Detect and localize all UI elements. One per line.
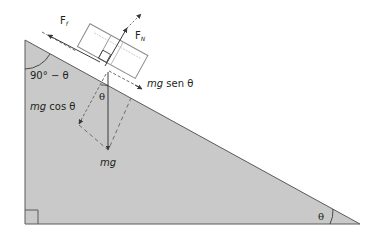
incline-dashed-extension <box>42 32 76 51</box>
parallel-component-label: mg sen θ <box>147 78 193 89</box>
friction-label: Ff <box>60 15 69 27</box>
base-angle-label: θ <box>318 211 324 222</box>
top-angle-label: 90° − θ <box>30 70 69 81</box>
incline-triangle <box>25 40 360 224</box>
inclined-plane-diagram: Ff FN mg sen θ mg mg cos θ θ 90° − θ θ <box>0 0 380 244</box>
weight-label: mg <box>100 157 116 168</box>
parallel-component-arrow <box>135 85 142 89</box>
normal-force-dashed-extension <box>127 14 141 28</box>
perpendicular-component-label: mg cos θ <box>30 101 75 112</box>
normal-label: FN <box>135 30 146 42</box>
block-angle-label: θ <box>99 91 105 102</box>
